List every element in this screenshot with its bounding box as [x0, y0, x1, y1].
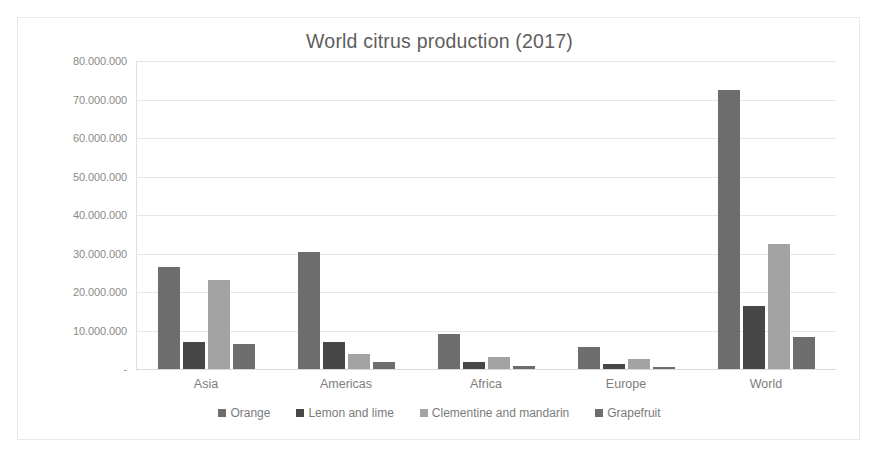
legend-label: Clementine and mandarin	[432, 406, 569, 420]
bar[interactable]	[603, 364, 625, 369]
legend-item[interactable]: Grapefruit	[595, 406, 660, 420]
legend-item[interactable]: Orange	[218, 406, 270, 420]
chart-title: World citrus production (2017)	[18, 30, 861, 53]
legend-label: Lemon and lime	[308, 406, 393, 420]
legend-swatch-icon	[420, 409, 428, 417]
bar[interactable]	[628, 359, 650, 369]
x-axis-category-label: Europe	[556, 377, 696, 391]
bars	[696, 61, 836, 369]
y-axis-tick-label: 50.000.000	[73, 171, 127, 183]
x-axis-category-label: Americas	[276, 377, 416, 391]
bar-group: Africa	[416, 61, 556, 369]
y-axis-tick-label: 60.000.000	[73, 132, 127, 144]
y-axis-tick-label: 40.000.000	[73, 209, 127, 221]
bar[interactable]	[578, 347, 600, 369]
bar[interactable]	[298, 252, 320, 369]
bar[interactable]	[718, 90, 740, 369]
bar-group: World	[696, 61, 836, 369]
bars	[556, 61, 696, 369]
legend-swatch-icon	[296, 409, 304, 417]
bar[interactable]	[438, 334, 460, 369]
legend-swatch-icon	[218, 409, 226, 417]
bars	[136, 61, 276, 369]
bar[interactable]	[488, 357, 510, 369]
bar[interactable]	[743, 306, 765, 369]
bar[interactable]	[373, 362, 395, 369]
chart-legend: OrangeLemon and limeClementine and manda…	[18, 406, 861, 420]
bar[interactable]	[158, 267, 180, 369]
legend-label: Orange	[230, 406, 270, 420]
bar[interactable]	[233, 344, 255, 369]
chart-container: World citrus production (2017) 80.000.00…	[17, 17, 860, 440]
legend-label: Grapefruit	[607, 406, 660, 420]
bar-group: Asia	[136, 61, 276, 369]
plot-area: 80.000.00070.000.00060.000.00050.000.000…	[136, 61, 836, 369]
bars	[276, 61, 416, 369]
bar-group: Europe	[556, 61, 696, 369]
bar[interactable]	[463, 362, 485, 369]
bar[interactable]	[653, 367, 675, 369]
x-axis-baseline	[136, 369, 836, 370]
bar[interactable]	[793, 337, 815, 369]
y-axis-tick-label: 30.000.000	[73, 248, 127, 260]
bar-group: Americas	[276, 61, 416, 369]
x-axis-category-label: World	[696, 377, 836, 391]
bar[interactable]	[183, 342, 205, 369]
y-axis-tick-label: 70.000.000	[73, 94, 127, 106]
y-axis-tick-label: 20.000.000	[73, 286, 127, 298]
bars	[416, 61, 556, 369]
x-axis-category-label: Africa	[416, 377, 556, 391]
legend-item[interactable]: Clementine and mandarin	[420, 406, 569, 420]
bar[interactable]	[348, 354, 370, 369]
y-axis-tick-label: 10.000.000	[73, 325, 127, 337]
y-axis-tick-label: -	[123, 363, 127, 375]
bar[interactable]	[208, 280, 230, 369]
bar[interactable]	[513, 366, 535, 369]
legend-item[interactable]: Lemon and lime	[296, 406, 393, 420]
x-axis-category-label: Asia	[136, 377, 276, 391]
y-axis-tick-label: 80.000.000	[73, 55, 127, 67]
bar[interactable]	[323, 342, 345, 369]
bar[interactable]	[768, 244, 790, 369]
legend-swatch-icon	[595, 409, 603, 417]
